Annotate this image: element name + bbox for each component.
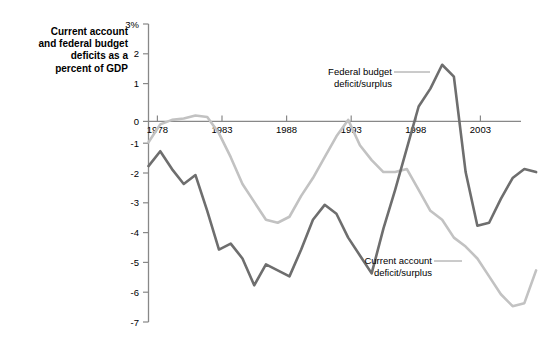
x-tick-label: 1988 [276, 124, 297, 135]
y-tick-label: -3 [131, 197, 139, 208]
x-tick-label: 2003 [470, 124, 491, 135]
y-axis-ticks [143, 24, 149, 322]
y-tick-label: -1 [131, 138, 139, 149]
current-account-annotation-line2: deficit/surplus [374, 267, 432, 278]
y-tick-label: 0 [134, 116, 139, 127]
federal-budget-annotation-line2: deficit/surplus [334, 78, 392, 89]
y-tick-label: 3% [125, 19, 139, 30]
federal-budget-annotation-line1: Federal budget [328, 66, 392, 77]
y-tick-label: -4 [131, 227, 139, 238]
y-tick-label: 1 [134, 78, 139, 89]
chart-plot-area: 3% 2 1 0 -1 -2 -3 -4 -5 -6 -7 1978 1983 … [0, 0, 540, 339]
series-line-federal-budget [149, 65, 537, 286]
y-tick-label: -7 [131, 317, 139, 328]
y-axis-tick-labels: 3% 2 1 0 -1 -2 -3 -4 -5 -6 -7 [125, 19, 139, 328]
y-tick-label: -2 [131, 168, 139, 179]
y-tick-label: 2 [134, 48, 139, 59]
x-tick-label: 1998 [405, 124, 426, 135]
y-tick-label: -5 [131, 257, 139, 268]
chart-figure: Current account and federal budget defic… [0, 0, 540, 339]
current-account-annotation-line1: Current account [364, 255, 432, 266]
y-tick-label: -6 [131, 287, 139, 298]
x-axis-tick-labels: 1978 1983 1988 1993 1998 2003 [147, 124, 491, 135]
